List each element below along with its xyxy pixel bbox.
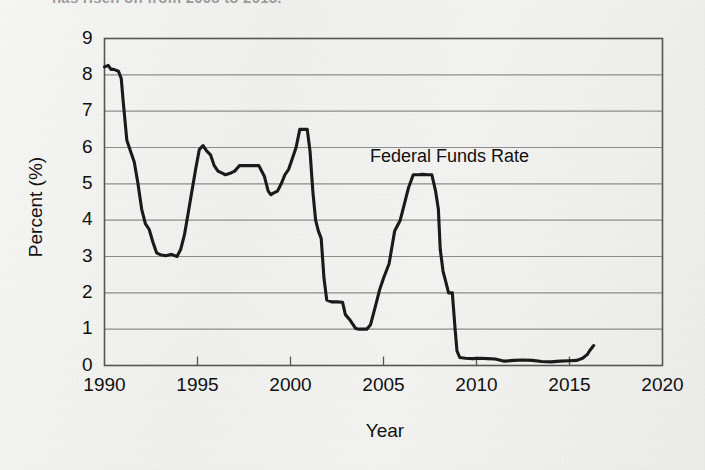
y-tick-label: 1 xyxy=(65,317,93,339)
x-tick-label: 2010 xyxy=(442,374,512,396)
y-tick-label: 3 xyxy=(65,245,93,267)
x-tick-label: 2005 xyxy=(349,374,419,396)
y-tick-label: 8 xyxy=(65,63,93,85)
y-tick-label: 9 xyxy=(65,27,93,49)
y-tick-label: 6 xyxy=(65,136,93,158)
x-tick-label: 2020 xyxy=(628,374,698,396)
x-tick-label: 1995 xyxy=(163,374,233,396)
gridlines-group xyxy=(105,75,663,329)
chart-canvas xyxy=(0,0,705,470)
y-tick-label: 4 xyxy=(65,208,93,230)
x-axis-title: Year xyxy=(285,420,485,442)
plot-area-frame xyxy=(105,39,663,366)
federal-funds-rate-line xyxy=(105,65,594,361)
y-tick-label: 7 xyxy=(65,99,93,121)
x-tick-label: 2015 xyxy=(535,374,605,396)
y-tick-label: 2 xyxy=(65,281,93,303)
series-annotation-label: Federal Funds Rate xyxy=(370,146,529,167)
y-tick-label: 5 xyxy=(65,172,93,194)
x-tick-label: 2000 xyxy=(256,374,326,396)
federal-funds-rate-chart: Percent (%) Year 0123456789 199019952000… xyxy=(0,0,705,470)
y-tick-label: 0 xyxy=(65,354,93,376)
x-tick-label: 1990 xyxy=(70,374,140,396)
y-axis-title: Percent (%) xyxy=(25,147,47,267)
